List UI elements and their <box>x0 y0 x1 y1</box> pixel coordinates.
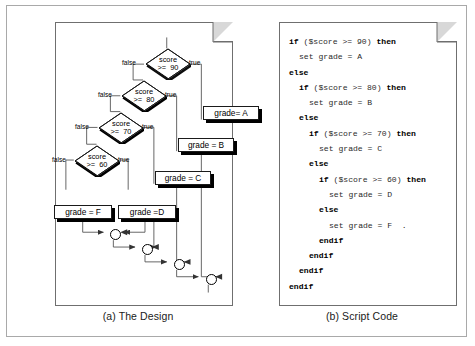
merge-node-1 <box>110 229 121 240</box>
merge-node-4 <box>206 274 217 285</box>
code-line: set grade = C <box>289 141 449 156</box>
code-text: ($score >= 70) <box>319 129 397 138</box>
code-line: set grade = B <box>289 95 449 110</box>
edge-label-true-60: true <box>118 156 129 163</box>
code-line: if ($score >= 70) then <box>289 126 449 141</box>
diamond-shape-icon <box>121 80 167 112</box>
code-keyword: if <box>319 175 329 184</box>
merge-node-3 <box>174 259 185 270</box>
code-keyword: if <box>309 129 319 138</box>
code-keyword: if <box>289 37 299 46</box>
code-keyword: endif <box>309 251 333 260</box>
code-line: set grade = D <box>289 187 449 202</box>
code-keyword: else <box>319 205 338 214</box>
code-keyword: then <box>406 175 425 184</box>
code-keyword: endif <box>319 236 343 245</box>
edge-label-true-70: true <box>142 123 153 130</box>
code-line: endif <box>289 248 449 263</box>
code-line: else <box>289 156 449 171</box>
code-text: set grade = F . <box>329 221 407 230</box>
code-keyword: else <box>289 68 308 77</box>
code-text: ($score >= 90) <box>299 37 377 46</box>
code-line: endif <box>289 233 449 248</box>
process-grade-a[interactable]: grade= A <box>203 106 259 120</box>
diamond-shape-icon <box>145 48 191 80</box>
process-grade-f[interactable]: grade = F <box>54 205 112 219</box>
code-keyword: then <box>376 37 395 46</box>
code-line: endif <box>289 279 449 294</box>
process-grade-c[interactable]: grade = C <box>155 171 211 185</box>
code-line: set grade = F . <box>289 218 449 233</box>
code-line: if ($score >= 90) then <box>289 34 449 49</box>
decision-score-ge-90[interactable]: score>= 90 <box>145 48 191 80</box>
code-text: ($score >= 60) <box>329 175 407 184</box>
code-line: if ($score >= 60) then <box>289 172 449 187</box>
edge-label-false-70: false <box>75 123 89 130</box>
code-text: ($score >= 80) <box>309 83 387 92</box>
code-text: set grade = D <box>329 190 392 199</box>
decision-score-ge-80[interactable]: score>= 80 <box>121 80 167 112</box>
caption-script-code: (b) Script Code <box>264 310 460 322</box>
code-line: endif <box>289 263 449 278</box>
code-text: set grade = B <box>309 98 372 107</box>
decision-score-ge-60[interactable]: score>= 60 <box>74 145 120 177</box>
diamond-shape-icon <box>74 145 120 177</box>
code-keyword: else <box>299 113 318 122</box>
code-keyword: endif <box>289 282 313 291</box>
code-panel: if ($score >= 90) thenset grade = Aelsei… <box>279 22 457 306</box>
edge-label-true-80: true <box>165 91 176 98</box>
process-grade-b[interactable]: grade = B <box>178 138 234 152</box>
edge-label-false-60: false <box>52 156 66 163</box>
code-line: set grade = A <box>289 49 449 64</box>
code-keyword: else <box>309 159 328 168</box>
code-line: else <box>289 202 449 217</box>
caption-design: (a) The Design <box>40 310 236 322</box>
edge-label-false-80: false <box>98 91 112 98</box>
edge-label-true-90: true <box>189 59 200 66</box>
code-line: else <box>289 65 449 80</box>
decision-score-ge-70[interactable]: score>= 70 <box>98 112 144 144</box>
diamond-shape-icon <box>98 112 144 144</box>
code-line: if ($score >= 80) then <box>289 80 449 95</box>
code-keyword: endif <box>299 266 323 275</box>
merge-node-2 <box>142 244 153 255</box>
script-code-block: if ($score >= 90) thenset grade = Aelsei… <box>289 34 449 299</box>
edge-label-false-90: false <box>122 59 136 66</box>
process-grade-d[interactable]: grade =D <box>118 205 176 219</box>
design-panel: score>= 90 false true score>= 80 false t… <box>55 22 233 306</box>
code-keyword: if <box>299 83 309 92</box>
code-keyword: then <box>396 129 415 138</box>
code-text: set grade = C <box>319 144 382 153</box>
code-keyword: then <box>386 83 405 92</box>
code-text: set grade = A <box>299 52 362 61</box>
figure-frame: score>= 90 false true score>= 80 false t… <box>6 5 467 337</box>
code-line: else <box>289 110 449 125</box>
